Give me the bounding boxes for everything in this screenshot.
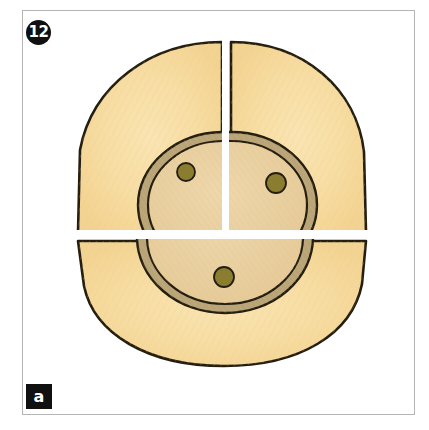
panel-number-badge: 12 bbox=[26, 20, 51, 45]
cross-section-diagram bbox=[0, 0, 429, 430]
dot-upper-right bbox=[266, 173, 286, 193]
panel-letter-badge: a bbox=[26, 384, 52, 409]
dot-lower bbox=[214, 267, 234, 287]
dot-upper-left bbox=[177, 163, 195, 181]
figure-page: 12 a bbox=[0, 0, 429, 430]
